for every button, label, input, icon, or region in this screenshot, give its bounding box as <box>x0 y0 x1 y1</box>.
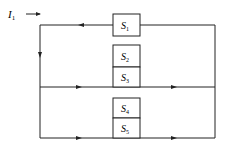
block-s4: S4 <box>113 98 140 118</box>
top-arrow-icon <box>78 23 84 27</box>
block-s2: S2 <box>113 45 140 67</box>
bottom-arrow-right-icon <box>171 136 177 140</box>
middle-arrow-right-icon <box>171 85 177 89</box>
flow-diagram: I1 S1 S2 S3 S4 S5 <box>0 0 231 149</box>
block-s3: S3 <box>113 67 140 87</box>
bottom-arrow-left-icon <box>76 136 82 140</box>
middle-arrow-left-icon <box>76 85 82 89</box>
input-label: I1 <box>7 8 16 22</box>
block-s5: S5 <box>113 118 140 138</box>
block-s1: S1 <box>113 14 140 36</box>
input-arrowhead-icon <box>36 12 41 16</box>
left-down-arrow-icon <box>38 52 42 58</box>
